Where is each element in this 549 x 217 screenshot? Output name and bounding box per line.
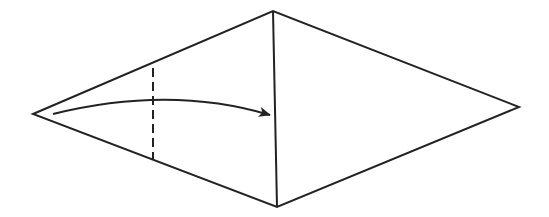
- origami-diagram: [0, 0, 549, 217]
- fold-direction-arrow-icon: [53, 100, 270, 115]
- diagram-canvas: [0, 0, 549, 217]
- center-crease-line: [273, 11, 277, 207]
